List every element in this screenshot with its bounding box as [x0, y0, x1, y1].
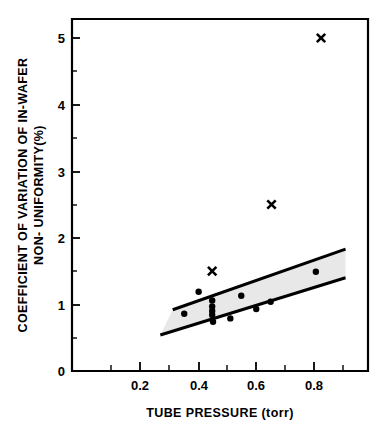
control-band — [160, 249, 345, 335]
data-point-circle — [267, 299, 273, 305]
data-point-circle — [238, 293, 244, 299]
data-point-cross — [267, 200, 275, 208]
data-point-circle — [313, 269, 319, 275]
x-tick-label-3: 0.8 — [305, 378, 323, 393]
y-tick-label-0: 0 — [58, 364, 65, 379]
y-tick-label-2: 2 — [58, 231, 65, 246]
y-tick-labels: 0 1 2 3 4 5 — [58, 31, 66, 379]
data-point-circle — [195, 289, 201, 295]
y-tick-label-5: 5 — [58, 31, 65, 46]
y-axis-title-line2: NON- UNIFORMITY(%) — [32, 125, 46, 265]
plot-frame — [72, 19, 368, 371]
y-tick-label-4: 4 — [58, 98, 66, 113]
series-1 — [208, 34, 325, 275]
x-axis-ticks — [111, 362, 343, 371]
y-tick-label-1: 1 — [58, 298, 65, 313]
data-point-circle — [253, 306, 259, 312]
y-axis-ticks — [72, 38, 80, 371]
y-tick-label-3: 3 — [58, 165, 65, 180]
data-point-circle — [209, 312, 215, 318]
data-point-circle — [209, 297, 215, 303]
x-axis-title: TUBE PRESSURE (torr) — [146, 406, 294, 420]
x-tick-label-2: 0.6 — [247, 378, 265, 393]
x-tick-label-0: 0.2 — [131, 378, 149, 393]
data-point-circle — [227, 315, 233, 321]
y-axis-title-line1: COEFFICIENT OF VARIATION OF IN-WAFER — [16, 57, 30, 332]
data-point-cross — [317, 34, 325, 42]
chart-figure: 0 1 2 3 4 5 0.2 0.4 0.6 0.8 TUBE PRESSUR… — [0, 0, 389, 436]
x-tick-label-1: 0.4 — [190, 378, 209, 393]
scatter-plot-svg: 0 1 2 3 4 5 0.2 0.4 0.6 0.8 TUBE PRESSUR… — [0, 0, 389, 436]
data-point-circle — [181, 311, 187, 317]
x-tick-labels: 0.2 0.4 0.6 0.8 — [131, 378, 323, 393]
data-point-cross — [208, 267, 216, 275]
data-point-circle — [210, 319, 216, 325]
